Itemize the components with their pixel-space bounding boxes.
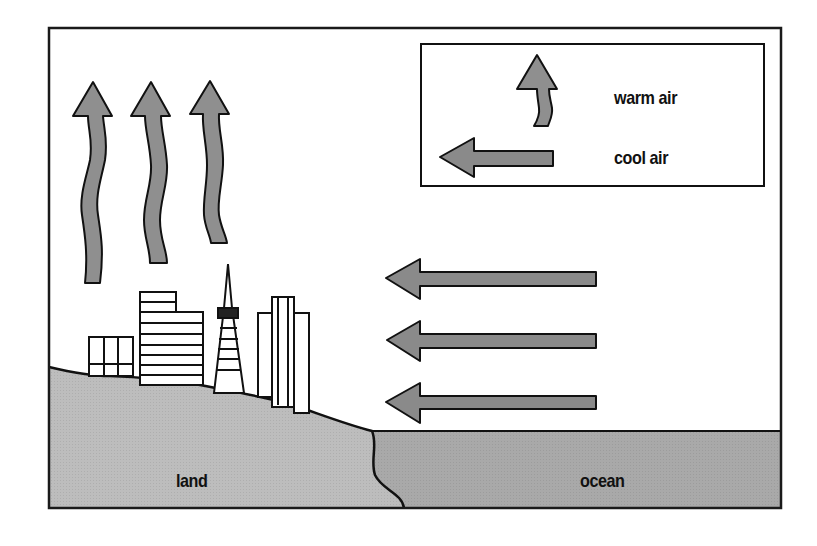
legend bbox=[421, 44, 764, 186]
cool-air-arrows bbox=[386, 259, 596, 423]
legend-label-warm-air: warm air bbox=[614, 87, 677, 109]
diagram-canvas bbox=[0, 0, 817, 546]
sea-breeze-diagram: warm air cool air land ocean bbox=[0, 0, 817, 546]
ocean-label: ocean bbox=[580, 470, 625, 492]
building-low-rise bbox=[89, 337, 133, 376]
ocean-region bbox=[372, 431, 781, 508]
building-tall-tower bbox=[258, 297, 309, 413]
land-label: land bbox=[176, 470, 208, 492]
legend-label-cool-air: cool air bbox=[614, 147, 668, 169]
